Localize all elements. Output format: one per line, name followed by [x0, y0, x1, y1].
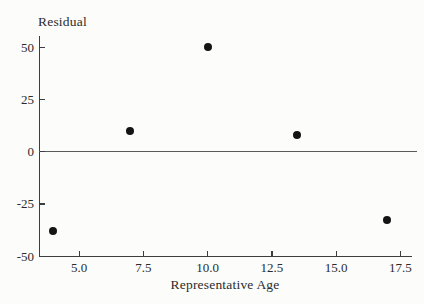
zero-reference-line	[39, 151, 417, 153]
y-tick-mark	[40, 256, 45, 257]
y-tick-mark	[40, 99, 45, 100]
y-tick-label: -50	[0, 249, 34, 264]
data-point	[383, 216, 391, 224]
x-tick-mark	[271, 251, 272, 256]
x-tick-mark	[336, 251, 337, 256]
residual-scatter-plot: Residual 50250-25-50 5.07.510.012.515.01…	[0, 0, 424, 304]
x-axis-line	[39, 256, 412, 258]
x-tick-mark	[400, 251, 401, 256]
x-tick-label: 10.0	[186, 260, 230, 275]
x-axis-title: Representative Age	[39, 277, 411, 293]
y-tick-label: 25	[0, 92, 34, 107]
data-point	[126, 127, 134, 135]
x-tick-label: 12.5	[250, 260, 294, 275]
y-tick-label: 0	[0, 144, 34, 159]
y-axis-title: Residual	[38, 14, 87, 30]
y-axis-line	[39, 36, 40, 257]
data-point	[49, 227, 57, 235]
x-tick-mark	[207, 251, 208, 256]
x-tick-label: 7.5	[121, 260, 165, 275]
x-tick-label: 15.0	[314, 260, 358, 275]
y-tick-mark	[40, 151, 45, 152]
x-tick-mark	[143, 251, 144, 256]
y-tick-mark	[40, 47, 45, 48]
data-point	[204, 43, 212, 51]
x-tick-label: 5.0	[57, 260, 101, 275]
y-tick-label: -25	[0, 196, 34, 211]
data-point	[293, 131, 301, 139]
y-tick-mark	[40, 203, 45, 204]
x-tick-mark	[79, 251, 80, 256]
y-tick-label: 50	[0, 40, 34, 55]
x-tick-label: 17.5	[378, 260, 422, 275]
